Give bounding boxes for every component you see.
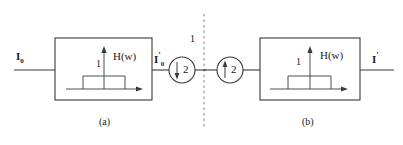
up-arrow-icon [223,61,228,68]
downsampler-circle [169,57,195,83]
amplitude-label-right: 1 [296,57,301,67]
magnitude-axis-arrowhead-left [101,46,106,53]
input-signal-label: I0 [16,51,24,65]
amplitude-label-left: 1 [96,59,101,69]
figure-root: I0 1 H(w) I'0 2 1 2 1 H(w) I' (a) (b) [0,0,403,145]
filter-response-label-left: H(w) [113,51,136,62]
down-arrow-icon [175,73,180,80]
frequency-axis-arrowhead-left [136,86,143,91]
filter-response-label-right: H(w) [320,50,343,61]
upsample-factor-label: 2 [231,64,237,75]
passband-rectangle-right [288,76,331,89]
output-signal-label: I' [372,51,379,65]
divider-rate-label: 1 [190,34,195,44]
caption-b: (b) [302,117,314,127]
diagram-canvas [0,0,403,145]
intermediate-signal-prime: ' [158,50,161,60]
intermediate-signal-label: I'0 [154,51,164,68]
downsample-factor-label: 2 [183,64,189,75]
input-signal-subscript: 0 [20,57,24,65]
upsampler-circle [217,57,243,83]
caption-a: (a) [99,117,110,127]
magnitude-axis-arrowhead-right [307,46,312,53]
output-signal-prime: ' [376,50,379,60]
frequency-axis-arrowhead-right [341,86,348,91]
intermediate-signal-subscript: 0 [161,60,165,68]
